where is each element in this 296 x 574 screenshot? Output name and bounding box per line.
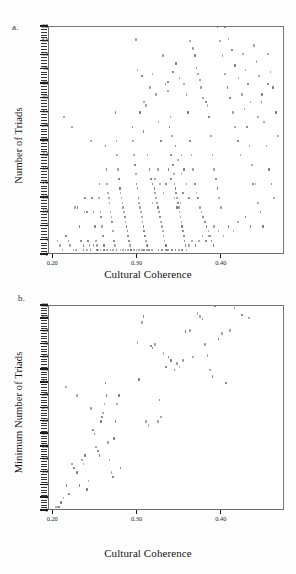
data-point: [261, 93, 263, 95]
data-point: [266, 145, 268, 147]
data-point: [159, 399, 161, 401]
y-tick-minor: [41, 251, 47, 252]
y-tick-minor: [41, 32, 47, 33]
y-tick-minor: [41, 37, 47, 38]
data-point: [100, 211, 102, 213]
y-tick-minor: [41, 428, 47, 429]
data-point: [132, 126, 134, 128]
data-point: [245, 216, 247, 218]
data-point: [65, 386, 67, 388]
data-point: [140, 211, 142, 213]
data-point: [174, 183, 176, 185]
data-point: [191, 240, 193, 242]
data-point: [133, 249, 135, 251]
data-point: [165, 83, 167, 85]
data-point: [105, 145, 107, 147]
y-tick-minor: [41, 492, 47, 493]
y-tick-minor: [41, 166, 47, 167]
y-tick-minor: [41, 49, 47, 50]
data-point: [247, 83, 249, 85]
data-point: [115, 111, 117, 113]
data-point: [191, 154, 193, 156]
data-point: [122, 249, 124, 251]
data-point: [163, 352, 165, 354]
y-tick-minor: [41, 200, 47, 201]
y-tick-minor: [41, 234, 47, 235]
data-point: [58, 506, 60, 508]
data-point: [95, 225, 97, 227]
data-point: [152, 73, 154, 75]
y-tick-minor: [41, 52, 47, 53]
data-point: [234, 307, 236, 309]
data-point: [170, 116, 172, 118]
y-tick-minor: [41, 63, 47, 64]
data-point: [225, 382, 227, 384]
data-point: [258, 75, 260, 77]
panel-b: b. Minimum Number of Triads 147101316192…: [0, 285, 296, 574]
data-point: [159, 183, 161, 185]
data-point: [242, 53, 244, 55]
data-point: [138, 249, 140, 251]
data-point: [106, 183, 108, 185]
panel-b-x-axis: 0.200.300.40: [48, 510, 284, 528]
data-point: [100, 420, 102, 422]
y-tick-minor: [41, 248, 47, 249]
data-point: [124, 216, 126, 218]
data-point: [141, 216, 143, 218]
y-tick-minor: [41, 415, 47, 416]
data-point: [84, 211, 86, 213]
data-point: [71, 463, 73, 465]
data-point: [106, 249, 108, 251]
y-tick-minor: [41, 507, 47, 508]
y-tick-minor: [41, 137, 47, 138]
y-tick-minor: [41, 479, 47, 480]
y-tick-minor: [41, 243, 47, 244]
x-tick-label: 0.20: [38, 260, 66, 266]
data-point: [164, 240, 166, 242]
y-tick-minor: [41, 323, 47, 324]
x-tick: [220, 510, 221, 514]
data-point: [208, 230, 210, 232]
data-point: [63, 116, 65, 118]
data-point: [86, 249, 88, 251]
data-point: [79, 225, 81, 227]
y-tick-label: 80: [32, 23, 48, 29]
y-tick-label: 80: [32, 302, 48, 308]
data-point: [62, 249, 64, 251]
data-point: [229, 97, 231, 99]
y-tick-minor: [41, 454, 47, 455]
data-point: [125, 249, 127, 251]
y-tick-minor: [41, 469, 47, 470]
data-point: [129, 244, 131, 246]
data-point: [179, 77, 181, 79]
data-point: [231, 49, 233, 51]
y-tick-minor: [41, 77, 47, 78]
data-point: [165, 366, 167, 368]
data-point: [220, 206, 222, 208]
y-tick-minor: [41, 114, 47, 115]
data-point: [87, 240, 89, 242]
data-point: [192, 356, 194, 358]
y-tick-minor: [41, 326, 47, 327]
data-point: [90, 407, 92, 409]
data-point: [73, 467, 75, 469]
data-point: [165, 183, 167, 185]
y-tick-minor: [41, 379, 47, 380]
data-point: [182, 230, 184, 232]
data-point: [192, 168, 194, 170]
data-point: [170, 178, 172, 180]
data-point: [108, 197, 110, 199]
y-tick-minor: [41, 43, 47, 44]
data-point: [209, 369, 211, 371]
data-point: [238, 77, 240, 79]
data-point: [139, 111, 141, 113]
data-point: [218, 230, 220, 232]
y-tick-minor: [41, 477, 47, 478]
data-point: [154, 192, 156, 194]
data-point: [224, 27, 226, 28]
data-point: [170, 154, 172, 156]
y-tick-minor: [41, 374, 47, 375]
panel-a-data-points: [49, 27, 283, 253]
data-point: [125, 221, 127, 223]
data-point: [219, 40, 221, 42]
